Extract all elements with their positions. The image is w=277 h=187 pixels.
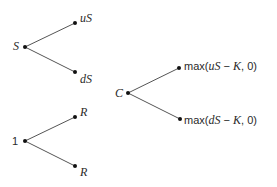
call-up-payoff: max(uS − K, 0) xyxy=(184,60,257,72)
tree-lines xyxy=(0,0,277,187)
stock-down-label: dS xyxy=(80,73,92,85)
stock-root-label: S xyxy=(13,40,19,52)
stock-up-label: uS xyxy=(80,12,92,24)
bond-up-label: R xyxy=(80,106,87,118)
bond-root-label: 1 xyxy=(12,135,18,147)
bond-down-label: R xyxy=(80,166,87,178)
call-down-payoff: max(dS − K, 0) xyxy=(184,114,257,126)
call-root-label: C xyxy=(115,87,123,99)
